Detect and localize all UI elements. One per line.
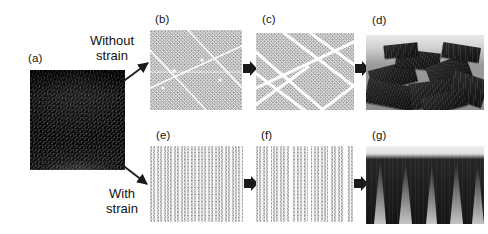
arrow-b-to-c-icon [243, 61, 257, 76]
crack-line [308, 146, 311, 222]
crack-line [289, 146, 292, 222]
arrow-a-to-b-icon [121, 63, 148, 83]
lattice-strained-aligned [150, 146, 243, 222]
panel-c-image [256, 33, 354, 110]
panel-e-image [150, 146, 243, 222]
fracture-lines [256, 33, 354, 110]
crack-line [344, 146, 347, 222]
panel-b-label: (b) [155, 13, 169, 26]
arrow-a-to-e-icon [121, 164, 147, 184]
lattice-parallel-domains [256, 146, 353, 222]
panel-f-image [256, 146, 353, 222]
panel-d-image [366, 35, 484, 110]
aligned-ridges-texture [366, 146, 484, 224]
panel-g-image [366, 146, 484, 224]
alignment-stripes [150, 146, 243, 222]
lattice-random-domains [256, 33, 354, 110]
figure-canvas: (a) Without strain With strain (b) [0, 0, 488, 234]
lattice-unstrained [150, 30, 242, 110]
panel-c-label: (c) [262, 13, 276, 26]
panel-e-label: (e) [156, 129, 170, 142]
shear-band-lines [150, 30, 242, 110]
crack-line [268, 146, 271, 222]
panel-g-label: (g) [372, 129, 386, 142]
panel-f-label: (f) [261, 129, 272, 142]
panel-b-image [150, 30, 242, 110]
crack-line [328, 146, 331, 222]
random-flakes-texture [366, 35, 484, 110]
panel-d-label: (d) [372, 14, 386, 27]
